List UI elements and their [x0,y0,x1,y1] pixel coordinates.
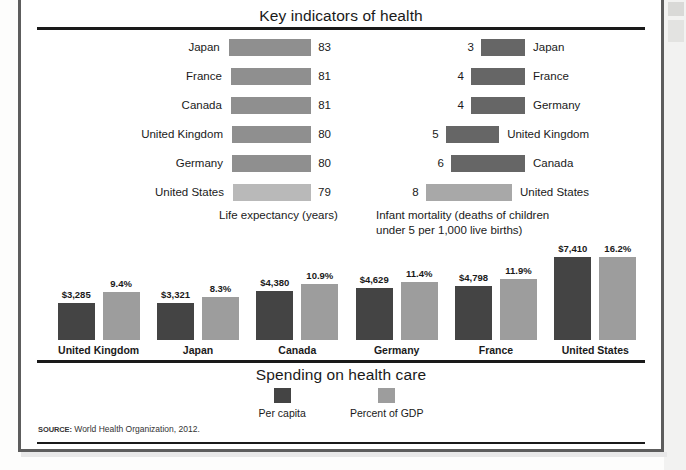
source-note: SOURCE: World Health Organization, 2012. [38,424,200,434]
life-expectancy-country-label: Germany [121,157,232,169]
spending-bar-per-capita: $7,410 [554,257,591,340]
spending-value-per-capita: $4,629 [360,274,389,285]
caption-life-expectancy: Life expectancy (years) [219,208,338,223]
page-drop-shadow [21,452,667,457]
infant-mortality-value: 4 [359,99,471,111]
spending-bar-per-capita: $4,380 [256,291,293,340]
life-expectancy-bar [232,155,311,172]
life-expectancy-country-label: France [121,70,231,82]
spending-value-percent-gdp: 8.3% [210,283,232,294]
spending-bar-per-capita: $3,321 [157,303,194,340]
life-expectancy-country-label: United Kingdom [121,128,232,140]
spending-value-per-capita: $4,798 [459,272,488,283]
life-expectancy-value: 80 [311,157,331,169]
source-label: SOURCE: [38,425,72,434]
life-expectancy-country-label: Canada [121,99,231,111]
infant-mortality-country-label: Canada [525,157,573,169]
life-expectancy-row: Canada81 [121,94,331,116]
infographic-content: Key indicators of health Japan83France81… [21,0,661,449]
spending-bar-pair: $7,41016.2% [546,257,645,340]
caption-infant-mortality-line1: Infant mortality (deaths of children [376,208,596,223]
infographic-page: Key indicators of health Japan83France81… [0,0,686,470]
infant-mortality-value: 5 [359,128,446,140]
page-title-key-indicators: Key indicators of health [21,7,661,25]
legend-swatch [378,388,395,403]
legend-item: Percent of GDP [350,388,424,419]
spending-bar-percent-gdp: 11.9% [500,279,537,340]
infant-mortality-row: 8United States [359,181,589,203]
life-expectancy-row: Japan83 [121,36,331,58]
spending-bar-per-capita: $3,285 [58,303,95,340]
spending-country-label: Germany [374,344,420,356]
page-frame-right-border [661,0,664,452]
spending-value-per-capita: $3,321 [161,289,190,300]
chart-life-expectancy: Japan83France81Canada81United Kingdom80G… [121,36,331,210]
infant-mortality-row: 6Canada [359,152,589,174]
chart-spending-on-health-care: $3,2859.4%United Kingdom$3,3218.3%Japan$… [49,243,645,358]
divider-under-top-title [37,27,645,30]
spending-bar-percent-gdp: 16.2% [599,257,636,340]
chart-infant-mortality: 3Japan4France4Germany5United Kingdom6Can… [359,36,589,210]
life-expectancy-row: United Kingdom80 [121,123,331,145]
spending-value-per-capita: $4,380 [260,277,289,288]
page-edge-tab-top [668,2,684,16]
life-expectancy-bar [232,126,311,143]
infant-mortality-country-label: France [525,70,569,82]
spending-country-label: United Kingdom [58,344,139,356]
spending-value-percent-gdp: 9.4% [110,278,132,289]
spending-value-per-capita: $3,285 [62,289,91,300]
life-expectancy-row: France81 [121,65,331,87]
infant-mortality-country-label: United States [512,186,589,198]
infant-mortality-row: 4France [359,65,589,87]
spending-value-percent-gdp: 11.4% [406,268,432,279]
infant-mortality-value: 6 [359,157,451,169]
spending-group: $4,62911.4%Germany [347,243,446,340]
life-expectancy-bar [229,39,311,56]
source-value: World Health Organization, 2012. [74,424,200,434]
spending-bar-percent-gdp: 10.9% [301,284,338,340]
life-expectancy-bar [231,68,311,85]
spending-group: $4,38010.9%Canada [248,243,347,340]
infant-mortality-row: 4Germany [359,94,589,116]
spending-group: $3,2859.4%United Kingdom [49,243,148,340]
spending-bar-percent-gdp: 9.4% [103,292,140,340]
spending-bar-pair: $4,38010.9% [248,257,347,340]
spending-value-percent-gdp: 16.2% [604,243,631,254]
section-title-spending: Spending on health care [21,366,661,384]
infant-mortality-value: 4 [359,70,471,82]
caption-infant-mortality: Infant mortality (deaths of children und… [376,208,596,237]
spending-bar-percent-gdp: 11.4% [401,282,438,340]
spending-value-per-capita: $7,410 [558,243,587,254]
life-expectancy-value: 83 [311,41,331,53]
spending-country-label: Canada [278,344,316,356]
spending-bar-per-capita: $4,629 [356,288,393,340]
spending-country-label: United States [562,344,629,356]
life-expectancy-bar [233,184,311,201]
infant-mortality-bar [471,97,525,114]
spending-bar-pair: $3,3218.3% [148,257,247,340]
legend-item: Per capita [259,388,306,419]
legend-swatch [274,388,291,403]
spending-bar-pair: $4,79811.9% [446,257,545,340]
life-expectancy-country-label: Japan [121,41,229,53]
infant-mortality-bar [426,184,512,201]
life-expectancy-row: United States79 [121,181,331,203]
life-expectancy-row: Germany80 [121,152,331,174]
infant-mortality-row: 3Japan [359,36,589,58]
spending-group: $3,3218.3%Japan [148,243,247,340]
infant-mortality-country-label: Japan [525,41,564,53]
infant-mortality-bar [446,126,500,143]
life-expectancy-value: 81 [311,70,331,82]
spending-bar-pair: $4,62911.4% [347,257,446,340]
spending-value-percent-gdp: 10.9% [306,270,333,281]
spending-value-percent-gdp: 11.9% [505,265,531,276]
spending-bar-pair: $3,2859.4% [49,257,148,340]
page-edge-tab-second [668,20,684,42]
infant-mortality-row: 5United Kingdom [359,123,589,145]
spending-country-label: France [479,344,513,356]
caption-infant-mortality-line2: under 5 per 1,000 live births) [376,223,596,238]
infant-mortality-value: 8 [359,186,426,198]
infant-mortality-bar [471,68,525,85]
infant-mortality-country-label: Germany [525,99,580,111]
infant-mortality-bar [451,155,525,172]
